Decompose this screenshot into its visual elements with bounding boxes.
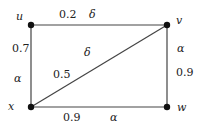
node-label-x: x — [8, 100, 15, 113]
param-u-v: δ — [89, 8, 96, 21]
weight-u-x: 0.7 — [12, 42, 30, 55]
param-u-x: α — [14, 72, 22, 85]
param-x-v: δ — [84, 46, 91, 59]
node-u — [28, 22, 34, 28]
node-label-v: v — [176, 14, 183, 27]
param-x-w: α — [110, 111, 118, 124]
edge-x-v — [31, 25, 167, 107]
node-v — [164, 22, 170, 28]
param-v-w: α — [177, 42, 185, 55]
weight-x-w: 0.9 — [63, 111, 81, 124]
node-w — [164, 104, 170, 110]
weight-v-w: 0.9 — [176, 66, 194, 79]
graph-diagram: u v x w 0.2 δ 0.7 α α 0.9 0.9 α 0.5 δ — [0, 0, 204, 128]
weight-u-v: 0.2 — [59, 8, 77, 21]
node-x — [28, 104, 34, 110]
weight-x-v: 0.5 — [53, 68, 71, 81]
node-label-u: u — [16, 10, 23, 23]
node-label-w: w — [177, 101, 187, 114]
